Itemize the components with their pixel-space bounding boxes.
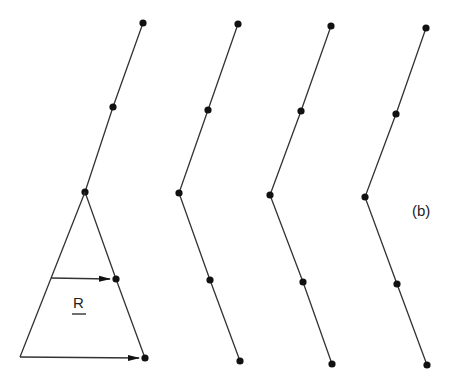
atom-dot	[297, 107, 304, 114]
chain-bond-line	[179, 24, 240, 361]
atom-dot	[266, 191, 273, 198]
chains-group	[81, 19, 430, 368]
atom-dot	[139, 19, 146, 26]
triangle-left-edge	[20, 192, 85, 357]
chain-bond-line	[85, 23, 145, 358]
atom-dot	[361, 193, 368, 200]
triangle-construction	[20, 192, 85, 357]
atom-dot	[206, 276, 213, 283]
chain-4	[361, 24, 430, 368]
atom-dot	[422, 24, 429, 31]
atom-dot	[328, 360, 335, 367]
atom-dot	[175, 189, 182, 196]
chain-bond-line	[270, 26, 332, 364]
chain-1	[81, 19, 148, 361]
atom-dot	[141, 354, 148, 361]
vector-base-arrow	[20, 357, 139, 358]
atom-dot	[392, 110, 399, 117]
atom-dot	[299, 278, 306, 285]
atom-dot	[234, 20, 241, 27]
chain-3	[266, 22, 335, 367]
chain-2	[175, 20, 243, 364]
atom-dot	[112, 275, 119, 282]
vector-R-mid-arrow	[51, 278, 110, 279]
chain-bond-line	[365, 28, 427, 365]
panel-label: (b)	[412, 202, 430, 219]
atom-dot	[423, 361, 430, 368]
vector-r-label: R	[73, 294, 84, 311]
atom-dot	[204, 106, 211, 113]
atom-dot	[236, 357, 243, 364]
atom-dot	[327, 22, 334, 29]
zigzag-chains-diagram: R (b)	[0, 0, 470, 391]
atom-dot	[393, 280, 400, 287]
vectors-group	[20, 278, 139, 358]
atom-dot	[109, 103, 116, 110]
